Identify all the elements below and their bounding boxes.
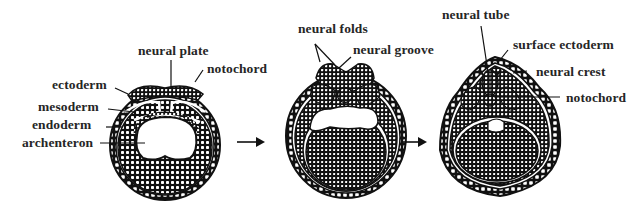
label-ectoderm: ectoderm — [52, 78, 107, 92]
label-endoderm: endoderm — [32, 118, 91, 132]
label-neural-tube: neural tube — [442, 8, 509, 22]
neurulation-diagram: neural plate notochord ectoderm mesoderm… — [0, 0, 642, 213]
label-neural-groove: neural groove — [353, 43, 434, 57]
label-mesoderm: mesoderm — [38, 100, 99, 114]
label-neural-folds: neural folds — [298, 22, 368, 36]
label-archenteron: archenteron — [22, 136, 93, 150]
label-neural-crest: neural crest — [536, 65, 606, 79]
label-surface-ectoderm: surface ectoderm — [513, 38, 614, 52]
label-notochord-stage-3: notochord — [566, 91, 626, 105]
stage-2-embryo — [286, 64, 406, 198]
right-arrow-icon — [237, 137, 265, 147]
label-notochord-stage-1: notochord — [207, 62, 267, 76]
label-neural-plate: neural plate — [138, 44, 209, 58]
